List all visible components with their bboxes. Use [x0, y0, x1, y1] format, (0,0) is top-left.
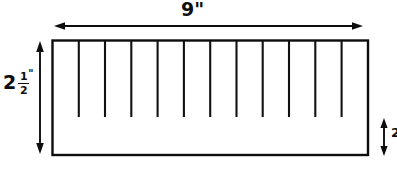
- height-label: 2 1 " 2: [3, 70, 29, 95]
- width-label: 9": [181, 0, 204, 19]
- fraction-denominator: 2: [19, 85, 29, 96]
- width-dimension-arrow: [54, 22, 363, 30]
- technical-drawing: 9" 2 1 " 2 2: [0, 0, 397, 169]
- width-arrowhead-left: [54, 22, 65, 30]
- height-arrowhead-top: [36, 41, 44, 52]
- height-whole-number: 2: [3, 73, 16, 92]
- inch-mark-icon: ": [28, 69, 33, 79]
- width-arrowhead-right: [352, 22, 363, 30]
- height-dimension-arrow: [36, 41, 44, 154]
- depth-arrowhead-top: [380, 118, 387, 128]
- height-fraction: 1 " 2: [18, 71, 29, 96]
- fraction-numerator: 1 ": [19, 71, 29, 82]
- depth-label: 2: [391, 126, 397, 139]
- height-arrowhead-bottom: [36, 143, 44, 154]
- slit-group: [79, 41, 342, 117]
- depth-dimension-arrow: [380, 118, 387, 156]
- depth-arrowhead-bottom: [380, 146, 387, 156]
- figure-svg: [0, 0, 397, 169]
- fraction-numerator-value: 1: [20, 70, 28, 83]
